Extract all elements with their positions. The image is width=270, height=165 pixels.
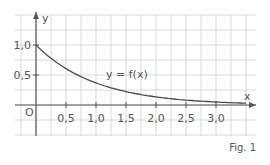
x-axis-label: x [244,90,251,103]
x-tick-label: 2,5 [177,112,195,125]
function-graph: 0,51,01,52,02,53,00,51,0 y = f(x) x y O [0,0,270,165]
y-axis-label: y [42,12,49,25]
x-tick-label: 1,0 [87,112,105,125]
x-tick-label: 0,5 [57,112,75,125]
x-tick-label: 3,0 [207,112,225,125]
x-tick-label: 2,0 [147,112,165,125]
y-tick-label: 1,0 [14,39,32,52]
ticks: 0,51,01,52,02,53,00,51,0 [14,39,225,125]
figure-caption: Fig. 1 [229,142,256,153]
y-tick-label: 0,5 [14,69,32,82]
origin-label: O [25,106,34,119]
x-tick-label: 1,5 [117,112,135,125]
curve-label: y = f(x) [106,68,148,81]
